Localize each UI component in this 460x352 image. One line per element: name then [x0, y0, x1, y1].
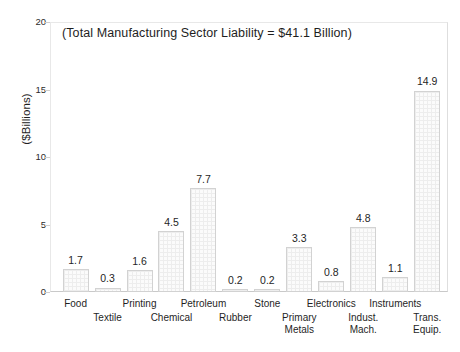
x-tick-label-line: Rubber [205, 312, 265, 324]
x-tick-label: Instruments [365, 298, 425, 310]
x-tick-label-line: Primary [269, 312, 329, 324]
bar-group: 7.7 [187, 22, 219, 292]
x-tick-label: Stone [237, 298, 297, 310]
bar-group: 14.9 [411, 22, 443, 292]
x-axis-labels: FoodTextilePrintingChemicalPetroleumRubb… [50, 292, 448, 352]
x-tick-label-line: Indust. [333, 312, 393, 324]
y-tick-label: 10 [0, 152, 46, 162]
bar[interactable] [127, 270, 153, 292]
x-tick-label: Rubber [205, 312, 265, 324]
bar-group: 4.8 [347, 22, 379, 292]
y-axis-title: ($Billions) [20, 49, 32, 189]
x-tick-label-line: Mach. [333, 324, 393, 336]
y-tick-label: 5 [0, 220, 46, 230]
x-tick-label-line: Chemical [141, 312, 201, 324]
x-tick-label-line: Food [46, 298, 106, 310]
bar-group: 1.7 [60, 22, 92, 292]
bar-value-label: 14.9 [405, 76, 449, 87]
y-tick-label: 15 [0, 85, 46, 95]
bar[interactable] [158, 231, 184, 292]
bar[interactable] [350, 227, 376, 292]
x-tick-label-line: Trans. [397, 312, 457, 324]
bar-group: 0.2 [219, 22, 251, 292]
x-tick-label-line: Metals [269, 324, 329, 336]
x-tick-label: Printing [110, 298, 170, 310]
bar[interactable] [414, 91, 440, 292]
x-tick-label-line: Equip. [397, 324, 457, 336]
x-tick-label: Indust.Mach. [333, 312, 393, 335]
x-tick-label-line: Printing [110, 298, 170, 310]
x-tick-label-line: Textile [78, 312, 138, 324]
bar-group: 3.3 [283, 22, 315, 292]
bar[interactable] [382, 277, 408, 292]
x-tick-label: PrimaryMetals [269, 312, 329, 335]
bar-group: 4.5 [155, 22, 187, 292]
bar[interactable] [318, 281, 344, 292]
x-tick-label-line: Petroleum [173, 298, 233, 310]
x-tick-label: Petroleum [173, 298, 233, 310]
bar-group: 1.6 [124, 22, 156, 292]
bar-chart: ($Billions) 05101520 (Total Manufacturin… [0, 0, 460, 352]
x-tick-label-line: Electronics [301, 298, 361, 310]
bar-group: 0.2 [251, 22, 283, 292]
x-tick-label: Electronics [301, 298, 361, 310]
y-tick-label: 0 [0, 287, 46, 297]
bar-group: 0.3 [92, 22, 124, 292]
x-tick-label: Textile [78, 312, 138, 324]
y-tick-label: 20 [0, 17, 46, 27]
x-tick-label: Chemical [141, 312, 201, 324]
x-tick-label-line: Instruments [365, 298, 425, 310]
bars-container: 1.70.31.64.57.70.20.23.30.84.81.114.9 [50, 22, 448, 292]
bar-group: 1.1 [379, 22, 411, 292]
x-tick-label: Trans.Equip. [397, 312, 457, 335]
x-tick-label: Food [46, 298, 106, 310]
bar-group: 0.8 [315, 22, 347, 292]
x-tick-label-line: Stone [237, 298, 297, 310]
